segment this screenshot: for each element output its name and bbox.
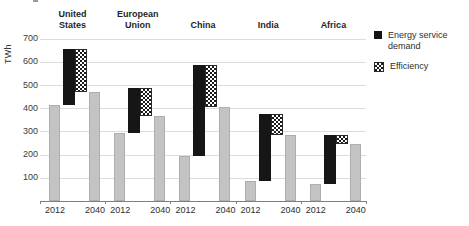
european-union-bar-2012 [114,133,125,201]
legend-swatch-energy-service-demand-icon [374,31,382,39]
group-header-european-union: European Union [110,0,166,30]
y-tick-label-700: 700 [12,33,38,44]
y-tick-label-200: 200 [12,149,38,160]
legend-label-energy-service-demand: Energy service demand [388,30,466,51]
gridline-700 [40,39,366,40]
legend-item-energy-service-demand: Energy service demand [374,30,466,51]
y-tick-label-500: 500 [12,80,38,91]
china-bar-energy-service-demand [193,65,205,155]
united-states-bar-efficiency [75,49,87,92]
legend-swatch-efficiency-icon [374,62,384,72]
africa-bar-2040 [350,144,361,201]
india-bar-2012 [245,181,256,201]
group-header-united-states: United States [45,0,101,30]
x-tick-label-2040-africa: 2040 [341,205,371,215]
y-tick-label-300: 300 [12,126,38,137]
china-bar-2040 [219,107,230,201]
x-tick-label-2012-united-states: 2012 [40,205,70,215]
x-tick-label-2012-china: 2012 [170,205,200,215]
european-union-bar-2040 [154,116,165,201]
legend-item-efficiency: Efficiency [374,61,466,72]
group-header-india: India [240,0,296,30]
x-tick-label-2012-africa: 2012 [301,205,331,215]
india-bar-2040 [285,135,296,201]
y-tick-label-400: 400 [12,103,38,114]
china-bar-2012 [179,156,190,201]
india-bar-efficiency [271,114,283,135]
legend: Energy service demand Efficiency [374,30,466,82]
european-union-bar-energy-service-demand [128,88,140,132]
chart-canvas: TWh Energy service demand Efficiency 100… [0,0,469,226]
india-bar-energy-service-demand [259,114,271,181]
africa-bar-2012 [310,184,321,201]
africa-bar-efficiency [336,135,348,144]
y-tick-label-600: 600 [12,56,38,67]
gridline-600 [40,62,366,63]
legend-label-efficiency: Efficiency [390,61,428,72]
africa-bar-energy-service-demand [324,135,336,184]
european-union-bar-efficiency [140,88,152,116]
china-bar-efficiency [205,65,217,107]
united-states-bar-2012 [49,105,60,201]
axis-tick-end [366,201,367,204]
cropped-edge-artifact [33,0,38,2]
y-tick-label-100: 100 [12,172,38,183]
x-tick-label-2012-european-union: 2012 [105,205,135,215]
group-header-china: China [175,0,231,30]
group-header-africa: Africa [305,0,361,30]
united-states-bar-energy-service-demand [63,49,75,105]
united-states-bar-2040 [89,92,100,201]
x-tick-label-2012-india: 2012 [236,205,266,215]
x-axis-line [40,201,366,202]
